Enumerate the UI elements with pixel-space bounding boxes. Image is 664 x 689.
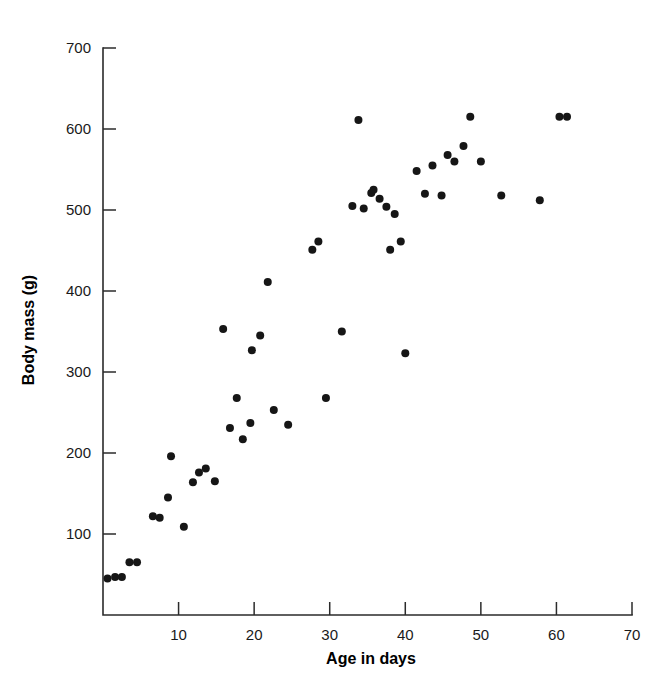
data-points-group xyxy=(104,113,571,583)
data-point xyxy=(270,406,278,414)
data-point xyxy=(195,468,203,476)
y-tick-label-200: 200 xyxy=(66,444,91,461)
data-point xyxy=(450,157,458,165)
data-point xyxy=(438,191,446,199)
data-point xyxy=(239,435,247,443)
data-point xyxy=(219,325,227,333)
data-point xyxy=(133,558,141,566)
data-point xyxy=(354,116,362,124)
data-point xyxy=(382,203,390,211)
data-point xyxy=(256,332,264,340)
x-tick-label-60: 60 xyxy=(548,626,565,643)
data-point xyxy=(202,464,210,472)
data-point xyxy=(189,478,197,486)
data-point xyxy=(248,346,256,354)
data-point xyxy=(118,573,126,581)
data-point xyxy=(226,424,234,432)
x-tick-label-50: 50 xyxy=(473,626,490,643)
data-point xyxy=(284,421,292,429)
data-point xyxy=(370,186,378,194)
data-point xyxy=(246,419,254,427)
y-tick-label-300: 300 xyxy=(66,363,91,380)
data-point xyxy=(413,167,421,175)
data-point xyxy=(167,452,175,460)
tick-labels-group: 10020030040050060070010203040506070 xyxy=(66,39,640,643)
data-point xyxy=(104,575,112,583)
scatter-plot-figure: 10020030040050060070010203040506070 Age … xyxy=(0,0,664,689)
y-axis-title: Body mass (g) xyxy=(20,275,37,385)
data-point xyxy=(459,142,467,150)
data-point xyxy=(164,494,172,502)
data-point xyxy=(444,151,452,159)
x-tick-label-10: 10 xyxy=(170,626,187,643)
x-tick-label-30: 30 xyxy=(321,626,338,643)
data-point xyxy=(421,190,429,198)
y-tick-label-600: 600 xyxy=(66,120,91,137)
y-tick-label-400: 400 xyxy=(66,282,91,299)
data-point xyxy=(563,113,571,121)
data-point xyxy=(348,202,356,210)
x-tick-label-70: 70 xyxy=(624,626,641,643)
data-point xyxy=(477,157,485,165)
data-point xyxy=(497,191,505,199)
data-point xyxy=(397,238,405,246)
y-tick-label-100: 100 xyxy=(66,525,91,542)
data-point xyxy=(233,394,241,402)
data-point xyxy=(391,210,399,218)
data-point xyxy=(555,113,563,121)
data-point xyxy=(125,558,133,566)
data-point xyxy=(322,394,330,402)
data-point xyxy=(386,246,394,254)
plot-canvas: 10020030040050060070010203040506070 Age … xyxy=(0,0,664,689)
data-point xyxy=(149,512,157,520)
y-tick-label-500: 500 xyxy=(66,201,91,218)
data-point xyxy=(428,161,436,169)
x-tick-label-20: 20 xyxy=(246,626,263,643)
data-point xyxy=(264,278,272,286)
data-point xyxy=(401,349,409,357)
data-point xyxy=(211,477,219,485)
y-tick-label-700: 700 xyxy=(66,39,91,56)
x-axis-title: Age in days xyxy=(326,650,416,667)
x-tick-label-40: 40 xyxy=(397,626,414,643)
data-point xyxy=(376,195,384,203)
data-point xyxy=(466,113,474,121)
data-point xyxy=(180,523,188,531)
data-point xyxy=(308,246,316,254)
data-point xyxy=(360,204,368,212)
data-point xyxy=(156,514,164,522)
data-point xyxy=(536,196,544,204)
data-point xyxy=(314,238,322,246)
data-point xyxy=(338,328,346,336)
